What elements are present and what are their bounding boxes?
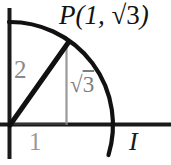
point-p-suffix: ) (140, 0, 149, 30)
vertical-leg-radicand: 3 (83, 72, 95, 97)
point-p-label: P(1, √3) (59, 2, 149, 29)
vertical-leg-radical-sign: √ (70, 72, 83, 97)
axis-point-i-label: I (129, 129, 138, 155)
geometry-figure: P(1, √3) 2 1 √3 I (0, 0, 171, 165)
circle-arc (9, 22, 113, 155)
vertical-leg-label: √3 (70, 73, 94, 96)
horizontal-leg-label: 1 (29, 129, 42, 154)
point-p-radicand: 3 (126, 0, 140, 30)
radius-length-label: 2 (14, 57, 27, 82)
point-p-radical-sign: √ (111, 0, 126, 30)
point-p-prefix: P(1, (59, 0, 111, 30)
